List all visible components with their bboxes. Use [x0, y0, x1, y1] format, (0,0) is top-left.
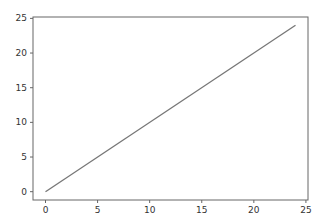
- y-tick-label: 10: [16, 117, 28, 127]
- y-tick-label: 20: [16, 48, 28, 58]
- y-tick-label: 25: [16, 13, 27, 23]
- x-tick-label: 0: [43, 205, 49, 215]
- x-tick-label: 20: [248, 205, 260, 215]
- x-axis-ticks: 0510152025: [43, 200, 312, 215]
- x-tick-label: 25: [300, 205, 311, 215]
- x-tick-label: 10: [144, 205, 156, 215]
- y-tick-label: 5: [21, 152, 27, 162]
- line-chart: 0510152025 0510152025: [0, 0, 326, 224]
- y-tick-label: 15: [16, 83, 27, 93]
- x-tick-label: 15: [196, 205, 207, 215]
- x-tick-label: 5: [95, 205, 101, 215]
- y-axis-ticks: 0510152025: [16, 13, 33, 196]
- y-tick-label: 0: [21, 187, 27, 197]
